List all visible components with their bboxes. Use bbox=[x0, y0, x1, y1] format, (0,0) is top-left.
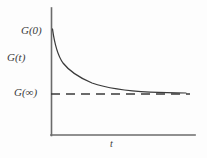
x-axis-title: t bbox=[110, 139, 113, 149]
initial-modulus-label: G(0) bbox=[21, 25, 42, 36]
relaxation-curve bbox=[53, 29, 187, 93]
relaxation-modulus-figure: G(0) G(t) G(∞) t bbox=[0, 0, 207, 158]
y-axis-title: G(t) bbox=[7, 52, 25, 63]
equilibrium-modulus-label: G(∞) bbox=[14, 87, 37, 98]
